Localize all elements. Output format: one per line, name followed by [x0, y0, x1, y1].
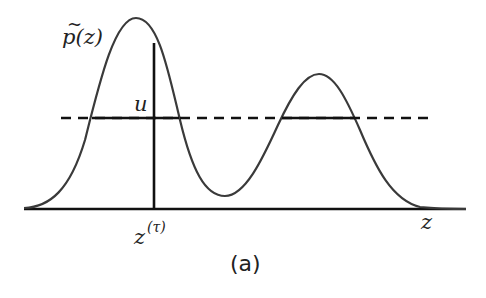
threshold-label: u [134, 92, 148, 116]
axis-label: z [420, 210, 433, 234]
sample-label: z [133, 225, 146, 249]
density-label: p(z) [62, 25, 103, 49]
slice-sampling-diagram: ~ p(z) u z (τ) z (a) [0, 0, 486, 298]
sample-label-sup: (τ) [147, 219, 166, 235]
figure-caption: (a) [230, 251, 261, 276]
